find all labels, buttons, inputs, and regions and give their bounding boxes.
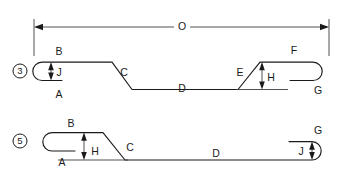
arrow-head-down-icon (259, 81, 265, 89)
dimension-label-g: G (314, 84, 322, 96)
dimension-j-group-shape-3 (48, 62, 54, 80)
overall-dimension-group: O (34, 19, 329, 56)
dimension-label-c: C (120, 66, 128, 78)
dimension-label-d: D (212, 147, 220, 159)
dimension-j-group-shape-5 (309, 142, 315, 160)
dimension-label-j: J (298, 145, 303, 157)
dimension-label-d: D (178, 82, 186, 94)
dimension-label-b: B (67, 117, 74, 129)
dimension-h-group-shape-3 (236, 62, 288, 89)
arrow-head-up-icon (309, 142, 315, 150)
arrow-head-down-icon (48, 72, 54, 80)
overall-dimension-label: O (178, 20, 186, 32)
item-marker-5: 5 (13, 134, 27, 148)
dimension-label-g: G (314, 124, 322, 136)
item-marker-3-label: 3 (17, 65, 22, 76)
dimension-label-a: A (58, 156, 65, 168)
dimension-label-b: B (55, 45, 62, 57)
drawing-canvas: O 3 B (0, 0, 344, 182)
arrow-head-up-icon (48, 62, 54, 70)
dimension-label-e: E (236, 66, 243, 78)
item-marker-5-label: 5 (17, 135, 22, 146)
dimension-label-h: H (91, 145, 99, 157)
arrow-head-down-icon (81, 152, 87, 160)
dimension-label-f: F (291, 44, 297, 56)
shape-3-group: 3 B J A C D E F (13, 44, 322, 100)
arrow-head-down-icon (309, 152, 315, 160)
dimension-label-j: J (56, 66, 61, 78)
dimension-label-c: C (126, 141, 134, 153)
arrow-head-right-icon (320, 24, 329, 30)
arrow-head-up-icon (259, 62, 265, 70)
dimension-label-a: A (55, 88, 62, 100)
shape-5-group: 5 B A H C D G J (13, 117, 322, 168)
arrow-head-left-icon (34, 24, 43, 30)
bend-profile-drawing: O 3 B (0, 0, 344, 182)
dimension-label-h: H (267, 71, 275, 83)
arrow-head-up-icon (81, 133, 87, 141)
item-marker-3: 3 (13, 64, 27, 78)
